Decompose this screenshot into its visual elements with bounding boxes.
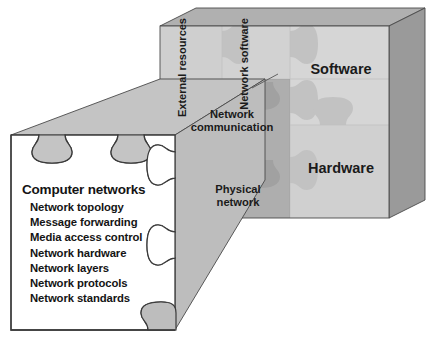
list-item: Network standards	[30, 292, 172, 304]
cube-label-hardware: Hardware	[295, 160, 387, 176]
cube-label-network-communication: Network communication	[176, 108, 288, 133]
cube-top-face	[160, 8, 425, 26]
network-communication-line-2: communication	[176, 121, 288, 134]
computer-networks-list: Computer networks Network topology Messa…	[22, 182, 172, 307]
panel-title: Computer networks	[22, 182, 172, 197]
list-item: Media access control	[30, 231, 172, 243]
cube-label-physical-network: Physical network	[196, 183, 280, 208]
list-item: Network layers	[30, 262, 172, 274]
physical-network-line-1: Physical	[196, 183, 280, 196]
list-item: Message forwarding	[30, 216, 172, 228]
list-item: Network hardware	[30, 247, 172, 259]
network-communication-line-1: Network	[176, 108, 288, 121]
diagram-canvas: External resources Network software Soft…	[0, 0, 443, 345]
list-item: Network protocols	[30, 277, 172, 289]
list-item: Network topology	[30, 201, 172, 213]
cube-right-face	[389, 8, 425, 218]
physical-network-line-2: network	[196, 196, 280, 209]
cube-label-software: Software	[295, 61, 387, 77]
cube-label-network-software: Network software	[238, 18, 250, 110]
cube-label-external-resources: External resources	[176, 18, 188, 117]
